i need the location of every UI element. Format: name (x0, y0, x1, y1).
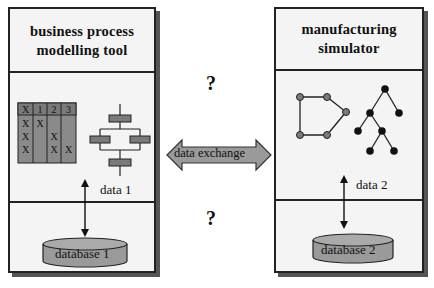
matrix-cell: X (36, 118, 44, 129)
manufacturing-simulator-panel: manufacturing simulator data 2 (274, 7, 424, 273)
matrix-table-icon: X123XXXXXXX (18, 103, 76, 163)
matrix-cell: X (22, 144, 30, 155)
left-panel-title: business process modelling tool (10, 22, 154, 60)
data-1-label: data 1 (100, 182, 131, 198)
right-upper-divider (276, 69, 422, 71)
database-2-label: database 2 (321, 242, 376, 258)
database-1-label: database 1 (55, 246, 110, 262)
matrix-cell: X (22, 131, 30, 142)
matrix-cell: 1 (38, 104, 43, 115)
flowchart-icon (90, 104, 150, 179)
question-mark-top: ? (206, 72, 216, 95)
matrix-cell: X (22, 104, 30, 115)
business-process-modelling-tool-panel: business process modelling tool X123XXXX… (8, 7, 156, 273)
matrix-cell: X (50, 144, 58, 155)
data-flow-arrow-1 (77, 179, 93, 237)
data-flow-arrow-2 (336, 175, 352, 229)
right-title-line1: manufacturing (276, 20, 422, 39)
matrix-cell: X (65, 144, 73, 155)
question-mark-bottom: ? (206, 207, 216, 230)
left-title-line2: modelling tool (10, 41, 154, 60)
left-upper-divider (10, 71, 154, 73)
matrix-cell: 2 (52, 104, 57, 115)
data-exchange-label: data exchange (174, 146, 245, 161)
matrix-cell: 3 (66, 104, 71, 115)
left-title-line1: business process (10, 22, 154, 41)
matrix-cell: X (22, 118, 30, 129)
network-graph-icon (296, 93, 356, 143)
right-title-line2: simulator (276, 39, 422, 58)
tree-graph-icon (355, 85, 411, 157)
matrix-cell: X (50, 131, 58, 142)
data-2-label: data 2 (356, 177, 387, 193)
right-panel-title: manufacturing simulator (276, 20, 422, 58)
